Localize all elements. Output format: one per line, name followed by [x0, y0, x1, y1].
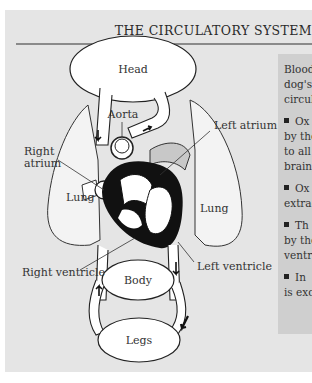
info-box: Blood dog's circul Ox by the to all brai…: [278, 54, 312, 334]
label-left-atrium: Left atrium: [214, 119, 278, 132]
label-head: Head: [118, 63, 148, 76]
label-left-ventricle: Left ventricle: [197, 260, 272, 273]
bullet-square-icon: [284, 222, 289, 227]
left-lung: [48, 105, 100, 245]
label-aorta: Aorta: [107, 108, 139, 121]
info-bullet-4: In is exc: [278, 270, 312, 300]
bullet-square-icon: [284, 185, 289, 190]
label-body: Body: [124, 274, 153, 287]
bullet-square-icon: [284, 118, 289, 123]
info-bullet-2: Ox extrac: [278, 181, 312, 211]
bullet-square-icon: [284, 274, 289, 279]
info-intro-line: dog's: [278, 77, 312, 92]
circulatory-diagram: Head Aorta Left atrium Right atrium Lung…: [0, 0, 312, 383]
label-right-ventricle: Right ventricle: [22, 266, 105, 279]
label-lung-right: Lung: [200, 202, 229, 215]
info-intro-line: circul: [278, 92, 312, 107]
label-lung-left: Lung: [66, 191, 95, 204]
label-right-atrium-2: atrium: [24, 157, 62, 170]
label-legs: Legs: [126, 334, 153, 347]
info-bullet-3: Th by the ventri: [278, 218, 312, 263]
info-intro-line: Blood: [278, 62, 312, 77]
info-bullet-1: Ox by the to all brain,: [278, 114, 312, 174]
